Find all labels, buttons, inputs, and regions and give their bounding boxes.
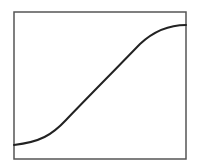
sigmoid-diagram [0, 0, 198, 168]
s-curve [14, 25, 186, 145]
